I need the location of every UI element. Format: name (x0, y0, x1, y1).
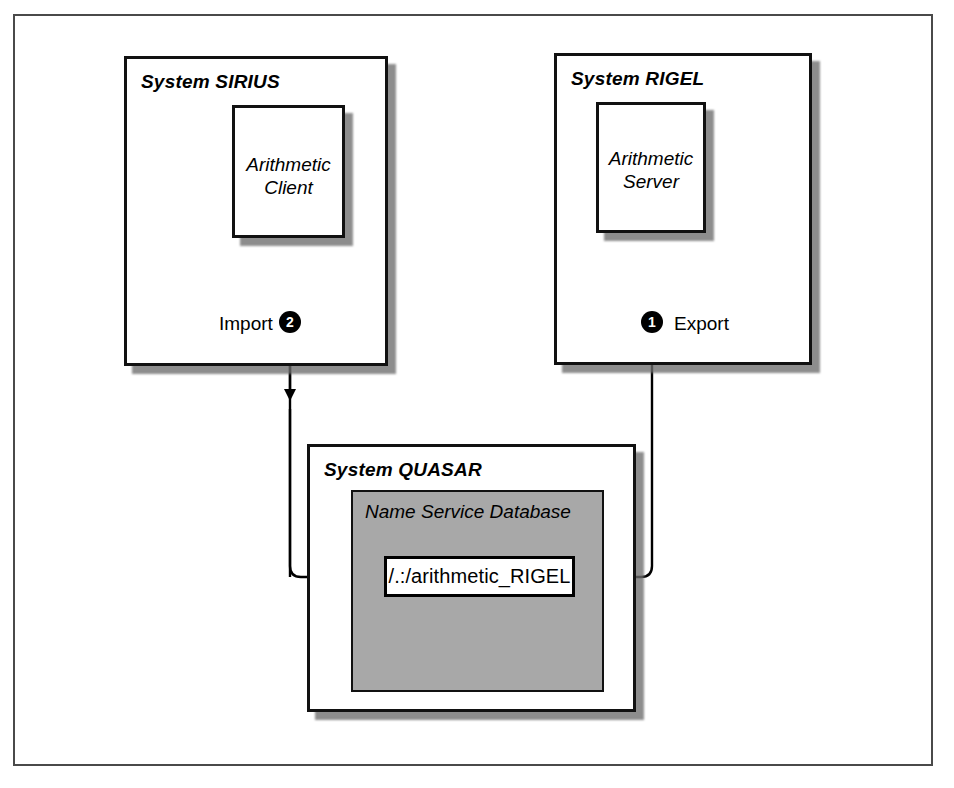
node-label-arithmetic-server-line2: Server (599, 170, 703, 193)
system-label-sirius: System SIRIUS (141, 71, 280, 93)
step-badge-export: 1 (641, 311, 663, 333)
diagram-canvas: System SIRIUS Arithmetic Client System R… (0, 0, 954, 788)
name-service-entry-text: /.:/arithmetic_RIGEL (388, 565, 570, 588)
name-service-entry: /.:/arithmetic_RIGEL (384, 556, 575, 597)
node-box-arithmetic-server: Arithmetic Server (596, 102, 706, 233)
step-badge-import: 2 (279, 311, 301, 333)
node-label-arithmetic-client-line2: Client (235, 176, 342, 199)
step-label-export: Export (674, 313, 729, 335)
name-service-database-label: Name Service Database (365, 501, 571, 523)
step-label-import: Import (219, 313, 273, 335)
node-box-arithmetic-client: Arithmetic Client (232, 105, 345, 238)
node-label-arithmetic-server-line1: Arithmetic (599, 147, 703, 170)
node-label-arithmetic-client-line1: Arithmetic (235, 153, 342, 176)
system-label-rigel: System RIGEL (571, 68, 704, 90)
system-label-quasar: System QUASAR (324, 459, 482, 481)
